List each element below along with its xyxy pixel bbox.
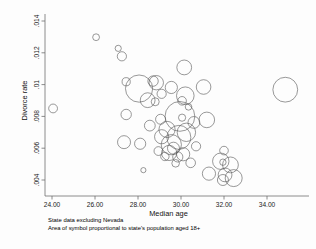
data-point-bubble	[177, 60, 192, 75]
x-axis-tick-label: 28.00	[130, 201, 147, 208]
data-point-bubble	[165, 81, 177, 93]
bubble-series	[49, 34, 298, 187]
data-point-bubble	[178, 114, 185, 121]
data-point-bubble	[177, 123, 195, 141]
x-axis-tick-label: 34.00	[259, 201, 276, 208]
data-point-bubble	[141, 168, 146, 173]
x-axis-tick-label: 32.00	[216, 201, 233, 208]
figure-notes: State data excluding Nevada Area of symb…	[48, 216, 200, 233]
data-point-bubble	[213, 153, 229, 169]
data-point-bubble	[93, 34, 100, 41]
data-point-bubble	[177, 87, 195, 105]
data-point-bubble	[117, 52, 126, 61]
data-point-bubble	[172, 160, 180, 168]
data-point-bubble	[121, 109, 131, 119]
y-axis-tick-label: .008	[33, 110, 40, 123]
note-line-2: Area of symbol proportional to state's p…	[48, 224, 200, 232]
y-axis-title: Divorce rate	[20, 81, 29, 121]
data-point-bubble	[199, 112, 215, 128]
data-point-bubble	[156, 114, 166, 124]
chart-figure: 24.0026.0028.0030.0032.0034.00.004.006.0…	[0, 0, 316, 249]
y-axis-tick-label: .004	[33, 173, 40, 186]
x-axis-tick-label: 26.00	[87, 201, 104, 208]
data-point-bubble	[135, 138, 146, 149]
data-point-bubble	[191, 142, 200, 151]
data-point-bubble	[125, 75, 152, 102]
y-axis-tick-label: .01	[33, 80, 40, 89]
data-point-bubble	[196, 80, 211, 95]
data-point-bubble	[144, 120, 155, 131]
data-point-bubble	[186, 158, 196, 168]
data-point-bubble	[273, 77, 298, 102]
y-axis-tick-label: .014	[33, 14, 40, 27]
axis-labels: 24.0026.0028.0030.0032.0034.00.004.006.0…	[20, 14, 276, 218]
x-axis-tick-label: 24.00	[44, 201, 61, 208]
data-point-bubble	[157, 89, 166, 98]
data-point-bubble	[49, 104, 58, 113]
data-point-bubble	[118, 136, 131, 149]
plot-axes	[42, 14, 310, 200]
data-point-bubble	[217, 175, 228, 186]
scatter-plot-canvas: 24.0026.0028.0030.0032.0034.00.004.006.0…	[0, 0, 316, 249]
data-point-bubble	[115, 45, 121, 51]
note-line-1: State data excluding Nevada	[48, 216, 200, 224]
x-axis-tick-label: 30.00	[173, 201, 190, 208]
y-axis-tick-label: .012	[33, 46, 40, 59]
y-axis-tick-label: .006	[33, 141, 40, 154]
data-point-bubble	[202, 167, 215, 180]
